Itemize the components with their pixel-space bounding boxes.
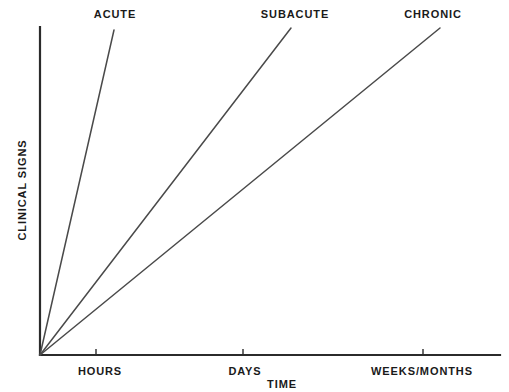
- x-tick-label-days: DAYS: [228, 366, 261, 377]
- x-tick-label-hours: HOURS: [78, 366, 122, 377]
- series-lines-group: [40, 28, 440, 355]
- series-label-chronic: CHRONIC: [404, 9, 462, 20]
- axes-group: [40, 27, 500, 355]
- series-line-chronic: [40, 28, 440, 355]
- series-label-subacute: SUBACUTE: [261, 9, 329, 20]
- x-tick-label-weeks-months: WEEKS/MONTHS: [371, 366, 473, 377]
- chart-plot-area: [0, 0, 509, 392]
- x-axis-title: TIME: [267, 379, 297, 390]
- clinical-signs-time-figure: ACUTE SUBACUTE CHRONIC HOURS DAYS WEEKS/…: [0, 0, 509, 392]
- y-axis-title: CLINICAL SIGNS: [17, 139, 28, 240]
- series-label-acute: ACUTE: [94, 9, 136, 20]
